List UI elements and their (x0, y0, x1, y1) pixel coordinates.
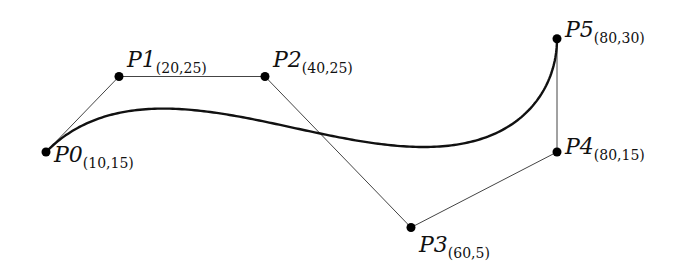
point-label: P0(10,15) (53, 142, 134, 171)
control-point-p0: P0(10,15) (42, 142, 134, 171)
point-label: P5(80,30) (564, 17, 645, 46)
point-label: P2(40,25) (272, 47, 353, 76)
point-label: P3(60,5) (418, 232, 490, 261)
point-marker (261, 72, 270, 81)
bezier-diagram: P0(10,15)P1(20,25)P2(40,25)P3(60,5)P4(80… (0, 0, 688, 267)
control-point-p2: P2(40,25) (261, 47, 353, 82)
point-marker (115, 72, 124, 81)
control-point-p3: P3(60,5) (407, 223, 490, 261)
point-marker (42, 148, 51, 157)
point-label: P4(80,15) (564, 134, 645, 163)
point-marker (553, 148, 562, 157)
point-marker (407, 223, 416, 232)
point-label: P1(20,25) (126, 47, 207, 76)
control-point-p1: P1(20,25) (115, 47, 207, 82)
control-point-p5: P5(80,30) (553, 17, 645, 46)
point-marker (553, 34, 562, 43)
control-point-p4: P4(80,15) (553, 134, 645, 163)
